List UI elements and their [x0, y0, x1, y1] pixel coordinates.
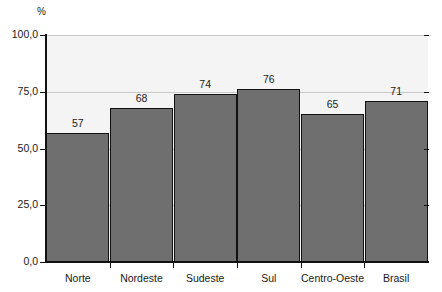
x-axis-tick [364, 263, 365, 268]
x-axis-tick [173, 263, 174, 268]
gridline-100-0 [46, 35, 428, 36]
y-axis-tick-right [424, 35, 429, 36]
y-axis-tick-right [424, 205, 429, 206]
bar [46, 133, 109, 262]
x-axis-label: Brasil [352, 272, 440, 284]
bar-value-label: 68 [110, 92, 173, 104]
y-axis-tick-right [424, 262, 429, 263]
bar [301, 114, 364, 262]
bar [174, 94, 237, 262]
bar-chart: % 0,025,050,075,0100,0 NorteNordesteSude… [0, 0, 442, 292]
y-axis-label: 50,0 [0, 142, 38, 154]
x-axis-tick [301, 263, 302, 268]
y-axis-tick [40, 92, 45, 93]
y-axis-tick [40, 262, 45, 263]
y-axis-tick [40, 35, 45, 36]
bar [237, 89, 300, 262]
y-axis-label: 0,0 [0, 255, 38, 267]
bar-value-label: 57 [46, 117, 109, 129]
y-axis-line [45, 34, 47, 263]
y-axis-label: 25,0 [0, 198, 38, 210]
bar-value-label: 65 [301, 98, 364, 110]
y-axis-tick [40, 205, 45, 206]
bar-value-label: 76 [237, 73, 300, 85]
bar-value-label: 74 [174, 78, 237, 90]
y-axis-tick [40, 149, 45, 150]
x-axis-tick [237, 263, 238, 268]
bar-value-label: 71 [365, 85, 428, 97]
y-axis-label: 100,0 [0, 28, 38, 40]
x-axis-tick [110, 263, 111, 268]
y-axis-unit-label: % [0, 6, 46, 17]
y-axis-tick-right [424, 149, 429, 150]
bar [110, 108, 173, 262]
plot-area [46, 35, 428, 262]
bar [365, 101, 428, 262]
y-axis-label: 75,0 [0, 85, 38, 97]
